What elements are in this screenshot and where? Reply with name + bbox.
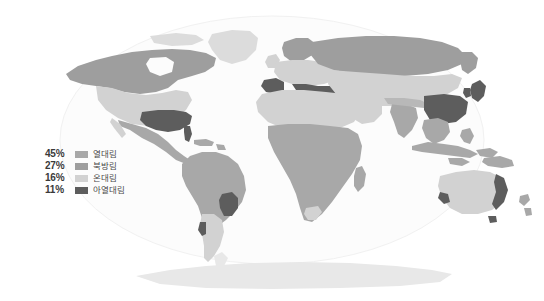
legend-label: 열대림 (93, 148, 117, 160)
region-far-east (460, 52, 478, 74)
forest-type-legend: 45% 열대림 27% 북방림 16% 온대림 11% 아열대림 (45, 148, 155, 196)
legend-label: 온대림 (93, 172, 117, 184)
region-new-guinea (482, 156, 514, 168)
legend-percent: 27% (45, 160, 72, 172)
legend-item-subtropical: 11% 아열대림 (45, 184, 155, 196)
legend-percent: 11% (45, 184, 72, 196)
legend-swatch-tropical (75, 151, 88, 158)
legend-item-temperate: 16% 온대림 (45, 172, 155, 184)
infographic-canvas: 45% 열대림 27% 북방림 16% 온대림 11% 아열대림 (0, 0, 544, 301)
region-tasmania (488, 216, 497, 223)
region-antarctica (136, 262, 452, 289)
legend-swatch-subtropical (75, 187, 88, 194)
region-new-zealand (519, 194, 532, 216)
legend-item-tropical: 45% 열대림 (45, 148, 155, 160)
legend-swatch-temperate (75, 175, 88, 182)
legend-percent: 45% (45, 148, 72, 160)
legend-swatch-boreal (75, 163, 88, 170)
legend-item-boreal: 27% 북방림 (45, 160, 155, 172)
legend-percent: 16% (45, 172, 72, 184)
legend-label: 아열대림 (93, 184, 125, 196)
legend-label: 북방림 (93, 160, 117, 172)
